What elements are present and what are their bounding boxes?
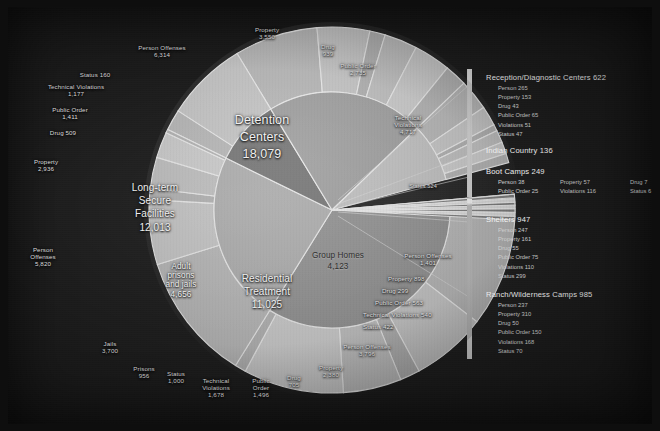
label-line: Drug 299 xyxy=(382,288,460,295)
outer-label-residential-property[interactable]: Property 2,380 xyxy=(309,365,353,379)
legend-group-title: Ranch/Wilderness Camps 985 xyxy=(486,290,592,299)
slice-label-group-homes[interactable]: Group Homes 4,123 xyxy=(295,251,381,271)
chart-canvas: Detention Centers 18,079 Long-term Secur… xyxy=(8,7,652,424)
legend-bracket xyxy=(467,69,472,197)
slice-label-line: Long-term xyxy=(96,182,214,193)
slice-value: 4,656 xyxy=(150,290,212,299)
label-value: 2,380 xyxy=(309,372,353,379)
legend-item-list: Person 265Property 153Drug 43Public Orde… xyxy=(498,84,606,139)
outer-label-group-person-offenses[interactable]: Person Offenses 1,401 xyxy=(386,253,470,267)
slice-label-residential-treatment[interactable]: Residential Treatment 11,025 xyxy=(211,273,323,311)
slice-label-line: Centers xyxy=(197,130,327,144)
slice-label-long-term-secure-facilities[interactable]: Long-term Secure Facilities 12,013 xyxy=(96,182,214,233)
outer-label-jails[interactable]: Jails 3,700 xyxy=(86,341,134,355)
legend-group-title: Indian Country 136 xyxy=(486,146,553,155)
outer-label-residential-drug[interactable]: Drug 705 xyxy=(276,375,312,389)
outer-label-longterm-drug[interactable]: Drug 509 xyxy=(32,130,94,137)
outer-label-longterm-person-offenses[interactable]: Person Offenses 5,820 xyxy=(12,247,74,268)
label-value: 1,401 xyxy=(386,260,470,267)
legend-group[interactable]: Shelters 947Person 247Property 161Drug 5… xyxy=(486,215,538,281)
legend-group-title: Shelters 947 xyxy=(486,215,538,224)
outer-label-group-public-order[interactable]: Public Order 563 xyxy=(375,300,465,307)
label-value: 3,796 xyxy=(321,351,413,358)
outer-label-group-technical-violations[interactable]: Technical Violations 540 xyxy=(363,312,469,319)
label-line: Drug 509 xyxy=(32,130,94,137)
slice-label-line: Secure xyxy=(96,195,214,206)
label-value: 2,936 xyxy=(16,166,76,173)
label-value: 5,820 xyxy=(12,261,74,268)
legend-item: Property 57 xyxy=(560,178,630,187)
label-value: 939 xyxy=(305,51,351,58)
legend-item: Property 153 xyxy=(498,93,606,102)
outer-label-detention-drug[interactable]: Drug 939 xyxy=(305,44,351,58)
legend-bracket xyxy=(467,205,472,359)
slice-label-line: Residential xyxy=(211,273,323,284)
outer-label-detention-public-order[interactable]: Public Order 2,735 xyxy=(326,63,390,77)
slice-label-line: Treatment xyxy=(211,286,323,297)
outer-label-longterm-public-order[interactable]: Public Order 1,411 xyxy=(35,107,105,121)
outer-label-detention-person-offenses[interactable]: Person Offenses 6,314 xyxy=(114,45,210,59)
outer-label-detention-technical-violations[interactable]: Technical Violations 4,717 xyxy=(378,115,438,136)
legend-item: Status 6 xyxy=(630,187,651,196)
slice-value: 18,079 xyxy=(197,147,327,161)
label-line: Property 898 xyxy=(388,276,466,283)
legend-item: Property 161 xyxy=(498,235,538,244)
label-value: 3,700 xyxy=(86,348,134,355)
legend-group[interactable]: Ranch/Wilderness Camps 985Person 237Prop… xyxy=(486,290,592,356)
outer-label-detention-property[interactable]: Property 3,550 xyxy=(236,27,298,41)
slice-label-line: Facilities xyxy=(96,208,214,219)
label-value: 2,735 xyxy=(326,70,390,77)
legend-item: Drug 55 xyxy=(498,244,538,253)
label-value: 4,717 xyxy=(378,129,438,136)
legend-item: Person 265 xyxy=(498,84,606,93)
slice-label-detention-centers[interactable]: Detention Centers 18,079 xyxy=(197,113,327,161)
label-line: Status 524 xyxy=(395,183,451,189)
slice-label-adult-prisons-and-jails[interactable]: Adult prisons and jails 4,656 xyxy=(150,262,212,299)
outer-label-longterm-technical-violations[interactable]: Technical Violations 1,177 xyxy=(30,84,122,98)
outer-label-residential-technical-violations[interactable]: Technical Violations 1,678 xyxy=(191,378,241,399)
label-value: 1,678 xyxy=(191,392,241,399)
slice-label-line: Adult xyxy=(150,262,212,271)
label-value: 1,411 xyxy=(35,114,105,121)
outer-label-longterm-status[interactable]: Status 160 xyxy=(64,72,126,79)
slice-value: 4,123 xyxy=(295,262,381,271)
outer-label-residential-public-order[interactable]: Public Order 1,496 xyxy=(241,378,281,399)
label-line: Status 160 xyxy=(64,72,126,79)
label-line: Status 422 xyxy=(363,324,441,331)
legend-item: Drug 50 xyxy=(498,319,592,328)
legend-item: Violations 168 xyxy=(498,338,592,347)
legend-group[interactable]: Boot Camps 249Person 38Property 57Drug 7… xyxy=(486,167,651,195)
legend-item-list: Person 247Property 161Drug 55Public Orde… xyxy=(498,226,538,281)
legend-item: Public Order 75 xyxy=(498,253,538,262)
outer-label-longterm-property[interactable]: Property 2,936 xyxy=(16,159,76,173)
slice-label-line: prisons xyxy=(150,271,212,280)
legend-item-list: Person 237Property 310Drug 50Public Orde… xyxy=(498,301,592,356)
legend-item: Status 70 xyxy=(498,347,592,356)
outer-label-group-drug[interactable]: Drug 299 xyxy=(382,288,460,295)
slice-label-line: Group Homes xyxy=(295,251,381,260)
outer-label-group-status[interactable]: Status 422 xyxy=(363,324,441,331)
label-line: Public Order 563 xyxy=(375,300,465,307)
legend-group[interactable]: Indian Country 136 xyxy=(486,146,553,155)
slice-value: 11,025 xyxy=(211,299,323,310)
label-value: 3,550 xyxy=(236,34,298,41)
slice-label-line: Detention xyxy=(197,113,327,127)
legend-group-title: Boot Camps 249 xyxy=(486,167,651,176)
legend-bracket xyxy=(467,199,472,203)
legend-item: Person 38 xyxy=(498,178,560,187)
label-value: 1,496 xyxy=(241,392,281,399)
legend-group[interactable]: Reception/Diagnostic Centers 622Person 2… xyxy=(486,73,606,139)
legend-item: Person 247 xyxy=(498,226,538,235)
label-line: Technical Violations 540 xyxy=(363,312,469,319)
outer-label-detention-status[interactable]: Status 524 xyxy=(395,183,451,189)
outer-label-group-property[interactable]: Property 898 xyxy=(388,276,466,283)
label-value: 6,314 xyxy=(114,52,210,59)
chart-screenshot: Detention Centers 18,079 Long-term Secur… xyxy=(0,0,660,431)
legend-item: Public Order 150 xyxy=(498,328,592,337)
slice-value: 12,013 xyxy=(96,222,214,233)
legend-item: Status 299 xyxy=(498,272,538,281)
legend-item: Public Order 25 xyxy=(498,187,560,196)
legend-item: Violations 51 xyxy=(498,121,606,130)
outer-label-residential-person-offenses[interactable]: Person Offenses 3,796 xyxy=(321,344,413,358)
legend-item: Drug 7 xyxy=(630,178,651,187)
